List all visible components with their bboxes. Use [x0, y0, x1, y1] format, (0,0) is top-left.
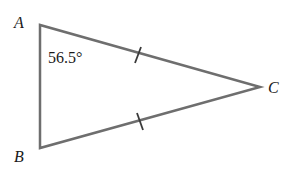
triangle-diagram: A B C 56.5°: [0, 0, 305, 170]
vertex-label-c: C: [268, 79, 279, 96]
tick-mark-ac: [135, 47, 141, 63]
vertex-label-a: A: [13, 14, 24, 31]
triangle-abc: [40, 25, 260, 148]
angle-label-a: 56.5°: [48, 49, 82, 66]
vertex-label-b: B: [14, 148, 24, 165]
